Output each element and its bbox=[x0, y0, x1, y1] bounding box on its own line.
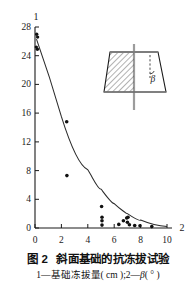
data-point bbox=[36, 48, 39, 51]
figure-caption: 图 2斜面基础的抗冻拔试验 1—基础冻拔量( cm );2—β( ° ) bbox=[0, 252, 196, 282]
data-point bbox=[126, 215, 130, 219]
inset-hatched-region bbox=[104, 52, 134, 92]
figure-container: β 0 4 8 12 16 20 bbox=[0, 0, 196, 298]
data-point bbox=[122, 219, 126, 223]
data-point bbox=[65, 174, 69, 178]
y-tick-label-4: 4 bbox=[26, 194, 31, 204]
y-tick-label-8: 8 bbox=[26, 166, 31, 176]
y-tick-label-20: 20 bbox=[22, 79, 32, 89]
data-point bbox=[100, 215, 104, 219]
caption-legend-unit: ( ° ) bbox=[145, 270, 160, 280]
caption-main-line: 图 2斜面基础的抗冻拔试验 bbox=[0, 252, 196, 266]
scatter-chart-svg: β 0 4 8 12 16 20 bbox=[0, 0, 196, 250]
x-tick-label-8: 8 bbox=[138, 235, 143, 245]
inset-foundation-diagram: β bbox=[104, 44, 166, 110]
y-axis-ticks: 0 4 8 12 16 20 24 28 bbox=[22, 22, 40, 233]
caption-legend-line: 1—基础冻拔量( cm );2—β( ° ) bbox=[0, 269, 196, 282]
caption-figure-title: 斜面基础的抗冻拔试验 bbox=[56, 253, 169, 265]
y-tick-label-12: 12 bbox=[22, 137, 32, 147]
fitted-curve bbox=[37, 39, 168, 227]
x-tick-label-10: 10 bbox=[162, 235, 172, 245]
data-point bbox=[138, 224, 142, 228]
data-point bbox=[36, 35, 39, 38]
inset-angle-label: β bbox=[150, 74, 156, 84]
y-tick-label-16: 16 bbox=[22, 108, 32, 118]
y-axis-id-label: 1 bbox=[34, 11, 39, 22]
chart-plot-area: β 0 4 8 12 16 20 bbox=[0, 0, 196, 250]
data-point bbox=[100, 205, 104, 209]
y-tick-label-24: 24 bbox=[22, 51, 32, 61]
caption-figure-number: 图 2 bbox=[27, 253, 49, 265]
x-tick-label-6: 6 bbox=[112, 235, 117, 245]
data-point bbox=[100, 219, 104, 223]
data-point bbox=[150, 225, 154, 229]
x-tick-label-2: 2 bbox=[59, 235, 64, 245]
data-point bbox=[117, 223, 121, 227]
y-tick-label-28: 28 bbox=[22, 22, 32, 32]
x-tick-label-0: 0 bbox=[33, 235, 38, 245]
x-axis-id-label: 2 bbox=[180, 222, 185, 233]
data-point bbox=[65, 120, 69, 124]
y-tick-label-0: 0 bbox=[26, 223, 31, 233]
x-tick-label-4: 4 bbox=[85, 235, 90, 245]
data-point bbox=[128, 223, 132, 227]
data-point bbox=[35, 33, 38, 36]
data-point bbox=[133, 224, 137, 228]
caption-legend-text: 1—基础冻拔量( cm );2— bbox=[36, 270, 140, 280]
data-point bbox=[100, 223, 104, 227]
scatter-points bbox=[35, 33, 154, 229]
